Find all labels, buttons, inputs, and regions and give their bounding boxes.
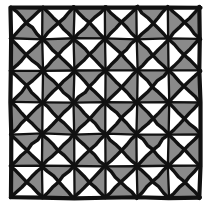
tiling-canvas: Square tiling with shaded triangular sub… [0, 0, 211, 212]
frame-edge-left [10, 7, 11, 197]
frame-edge-bottom [12, 197, 200, 198]
tiling-figure: Square tiling with shaded triangular sub… [0, 0, 211, 212]
frame-edge-right [199, 7, 200, 198]
